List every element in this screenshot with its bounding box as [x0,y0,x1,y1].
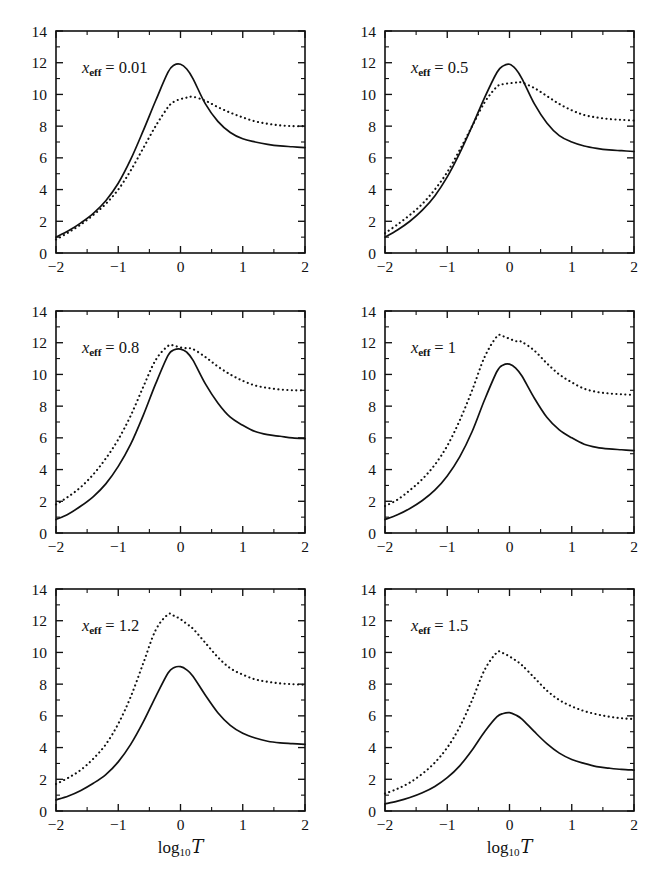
solid-curve [56,349,305,520]
y-tick-label: 4 [39,739,47,756]
y-tick-label: 12 [32,612,48,629]
y-tick-label: 10 [32,366,48,383]
solid-curve [385,713,634,804]
y-tick-label: 12 [32,54,48,71]
y-tick-label: 4 [368,181,376,198]
x-tick-label: 0 [177,538,185,555]
dotted-curve [56,97,305,240]
plot-panel: −2−101202468101214 [16,297,327,563]
panel-grid: −2−101202468101214xeff = 0.01−2−10120246… [0,0,661,877]
x-tick-label: 2 [630,538,638,555]
panel-label-subscript: eff [89,66,101,78]
plot-panel: −2−101202468101214 [345,17,656,283]
panel-label-variable: xeff [411,58,430,77]
figure-caption [0,861,661,877]
panel-label-subscript: eff [418,66,430,78]
y-tick-label: 6 [368,149,376,166]
panel-label: xeff = 1.5 [411,616,468,636]
panel-label-variable: xeff [411,338,430,357]
panel-label: xeff = 1 [411,338,456,358]
panel-label-subscript: eff [89,624,101,636]
x-axis-title: log10T [385,836,634,858]
y-tick-label: 14 [361,303,377,320]
y-tick-label: 6 [368,429,376,446]
y-tick-label: 10 [32,86,48,103]
x-tick-label: 0 [177,258,185,275]
y-tick-label: 14 [32,303,48,320]
x-tick-label: −1 [110,538,127,555]
plot-panel: −2−101202468101214 [16,17,327,283]
x-tick-label: −2 [377,816,394,833]
y-tick-label: 4 [368,461,376,478]
x-tick-label: −1 [110,816,127,833]
y-tick-label: 0 [39,245,47,262]
x-tick-label: −2 [377,538,394,555]
x-tick-label: −1 [110,258,127,275]
x-tick-label: −2 [48,816,65,833]
x-tick-label: 0 [506,816,514,833]
solid-curve [385,64,634,237]
panel-label-variable: xeff [82,616,101,635]
figure-root: −2−101202468101214xeff = 0.01−2−10120246… [0,0,661,877]
panel-label-subscript: eff [418,624,430,636]
x-tick-label: 0 [506,258,514,275]
panel-label-value: = 0.01 [101,58,147,77]
y-tick-label: 2 [368,493,376,510]
y-tick-label: 8 [39,398,47,415]
y-tick-label: 6 [39,429,47,446]
y-tick-label: 6 [39,707,47,724]
x-tick-label: −1 [439,258,456,275]
x-tick-label: −1 [439,538,456,555]
y-tick-label: 0 [39,803,47,820]
dotted-curve [385,651,634,793]
y-tick-label: 2 [368,771,376,788]
panel-label-value: = 1 [430,338,456,357]
x-tick-label: 0 [506,538,514,555]
x-tick-label: −2 [377,258,394,275]
plot-panel: −2−101202468101214 [345,575,656,841]
panel-label-subscript: eff [418,346,430,358]
x-axis-title: log10T [56,836,305,858]
panel-label-value: = 1.2 [101,616,139,635]
x-tick-label: 1 [568,816,576,833]
solid-curve [56,64,305,237]
x-tick-label: 2 [301,258,309,275]
y-tick-label: 0 [39,525,47,542]
y-tick-label: 14 [361,23,377,40]
panel-label-value: = 0.8 [101,338,139,357]
x-axis-title-symbol: T [190,836,203,857]
x-axis-title-base: log [158,838,180,857]
x-tick-label: 2 [630,258,638,275]
y-tick-label: 14 [32,581,48,598]
y-tick-label: 4 [39,181,47,198]
panel-label-variable: xeff [82,338,101,357]
y-tick-label: 8 [368,118,376,135]
panel-label-value: = 0.5 [430,58,468,77]
dotted-curve [56,345,305,505]
y-tick-label: 4 [368,739,376,756]
x-tick-label: 2 [301,816,309,833]
y-tick-label: 4 [39,461,47,478]
x-tick-label: −1 [439,816,456,833]
y-tick-label: 10 [32,644,48,661]
y-tick-label: 2 [39,213,47,230]
y-tick-label: 0 [368,245,376,262]
y-tick-label: 14 [32,23,48,40]
x-tick-label: 1 [568,538,576,555]
y-tick-label: 12 [361,612,377,629]
y-tick-label: 12 [32,334,48,351]
y-tick-label: 2 [368,213,376,230]
plot-panel: −2−101202468101214 [345,297,656,563]
y-tick-label: 12 [361,334,377,351]
x-tick-label: 2 [630,816,638,833]
y-tick-label: 2 [39,771,47,788]
y-tick-label: 6 [39,149,47,166]
x-tick-label: 1 [239,816,247,833]
x-tick-label: 2 [301,538,309,555]
panel-label: xeff = 1.2 [82,616,139,636]
x-axis-title-symbol: T [519,836,532,857]
y-tick-label: 8 [368,398,376,415]
x-tick-label: 1 [568,258,576,275]
x-axis-title-subscript: 10 [179,846,190,858]
solid-curve [56,666,305,799]
